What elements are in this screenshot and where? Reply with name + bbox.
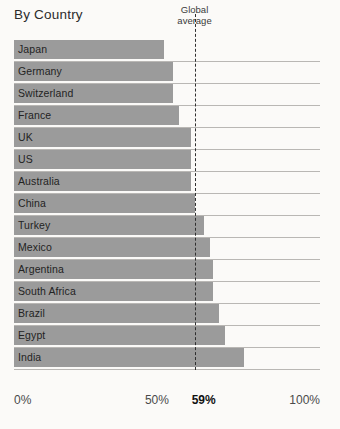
- bar[interactable]: [14, 326, 225, 345]
- bar-label: France: [18, 108, 51, 123]
- bar-label: India: [18, 350, 41, 365]
- bar-row: Australia: [0, 172, 340, 194]
- bar-label: Turkey: [18, 218, 50, 233]
- bar-label: US: [18, 152, 33, 167]
- bar-row: Turkey: [0, 216, 340, 238]
- bar[interactable]: [14, 348, 244, 367]
- bar-label: Argentina: [18, 262, 64, 277]
- x-axis-tick-label: 50%: [145, 393, 169, 407]
- bar-row: Switzerland: [0, 84, 340, 106]
- bar-row: Japan: [0, 40, 340, 62]
- bar[interactable]: [14, 128, 191, 147]
- bar-rows: JapanGermanySwitzerlandFranceUKUSAustral…: [0, 40, 340, 370]
- bar-label: China: [18, 196, 46, 211]
- bar-row: South Africa: [0, 282, 340, 304]
- bar-label: Germany: [18, 64, 62, 79]
- global-average-line: [195, 14, 196, 370]
- bar-row: France: [0, 106, 340, 128]
- bar-row: Mexico: [0, 238, 340, 260]
- bar-label: Switzerland: [18, 86, 73, 101]
- page-title: By Country: [14, 7, 83, 22]
- x-axis-tick-label: 59%: [192, 393, 216, 407]
- bar-row-baseline: [14, 369, 320, 370]
- bar-row: Germany: [0, 62, 340, 84]
- bar-row: US: [0, 150, 340, 172]
- x-axis: 0%50%59%100%: [0, 385, 340, 429]
- bar-label: Mexico: [18, 240, 52, 255]
- bar-label: Australia: [18, 174, 60, 189]
- bar-label: UK: [18, 130, 33, 145]
- chart-header: By Country Global average: [0, 0, 340, 40]
- bar-row: China: [0, 194, 340, 216]
- bar-label: Brazil: [18, 306, 45, 321]
- bar-row: India: [0, 348, 340, 370]
- bar-label: South Africa: [18, 284, 76, 299]
- bar-label: Japan: [18, 42, 47, 57]
- bar-chart-plot-area: JapanGermanySwitzerlandFranceUKUSAustral…: [0, 40, 340, 385]
- x-axis-tick-label: 100%: [289, 393, 320, 407]
- x-axis-tick-label: 0%: [14, 393, 31, 407]
- bar-row: UK: [0, 128, 340, 150]
- bar-label: Egypt: [18, 328, 45, 343]
- bar-row: Argentina: [0, 260, 340, 282]
- bar[interactable]: [14, 150, 191, 169]
- bar-row: Brazil: [0, 304, 340, 326]
- bar-row: Egypt: [0, 326, 340, 348]
